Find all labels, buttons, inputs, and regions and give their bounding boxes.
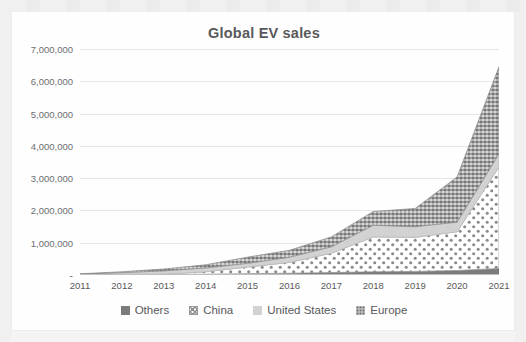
stacked-area-series bbox=[80, 49, 499, 275]
x-axis-tick-label: 2017 bbox=[321, 280, 342, 291]
x-axis-tick-label: 2011 bbox=[70, 280, 90, 291]
chart-title: Global EV sales bbox=[12, 25, 516, 41]
x-axis-tick-label: 2012 bbox=[111, 280, 132, 291]
plot-area: -1,000,0002,000,0003,000,0004,000,0005,0… bbox=[80, 49, 499, 275]
x-axis-tick-label: 2016 bbox=[279, 280, 300, 291]
legend-swatch-icon bbox=[189, 306, 198, 315]
y-axis-tick-label: 3,000,000 bbox=[31, 173, 73, 184]
legend-swatch-icon bbox=[253, 306, 262, 315]
x-axis-tick-label: 2015 bbox=[237, 280, 258, 291]
y-axis-tick-label: 5,000,000 bbox=[31, 108, 73, 119]
chart-legend: OthersChinaUnited StatesEurope bbox=[12, 304, 516, 316]
legend-item-united-states[interactable]: United States bbox=[253, 304, 336, 316]
legend-item-others[interactable]: Others bbox=[121, 304, 170, 316]
legend-swatch-icon bbox=[356, 306, 365, 315]
legend-label: China bbox=[203, 304, 233, 316]
x-axis-tick-label: 2019 bbox=[405, 280, 426, 291]
y-axis-tick-label: 2,000,000 bbox=[31, 205, 73, 216]
legend-label: Europe bbox=[370, 304, 407, 316]
legend-item-europe[interactable]: Europe bbox=[356, 304, 407, 316]
x-axis-tick-label: 2013 bbox=[153, 280, 174, 291]
x-axis-tick-label: 2018 bbox=[363, 280, 384, 291]
x-axis-tick-label: 2020 bbox=[447, 280, 468, 291]
x-axis-tick-label: 2014 bbox=[195, 280, 216, 291]
y-axis-tick-label: 7,000,000 bbox=[31, 44, 73, 55]
legend-swatch-icon bbox=[121, 306, 130, 315]
x-axis-line bbox=[80, 274, 499, 275]
legend-item-china[interactable]: China bbox=[189, 304, 233, 316]
screenshot-root: Global EV sales -1,000,0002,000,0003,000… bbox=[0, 0, 526, 342]
legend-label: United States bbox=[267, 304, 336, 316]
y-axis-tick-label: 6,000,000 bbox=[31, 76, 73, 87]
legend-label: Others bbox=[135, 304, 170, 316]
page-bottom-strip bbox=[11, 331, 515, 342]
y-axis-tick-label: 1,000,000 bbox=[31, 237, 73, 248]
x-axis-labels: 2011201220132014201520162017201820192020… bbox=[80, 280, 499, 296]
y-axis-tick-label: 4,000,000 bbox=[31, 140, 73, 151]
chart-card: Global EV sales -1,000,0002,000,0003,000… bbox=[11, 11, 515, 331]
x-axis-tick-label: 2021 bbox=[488, 280, 509, 291]
